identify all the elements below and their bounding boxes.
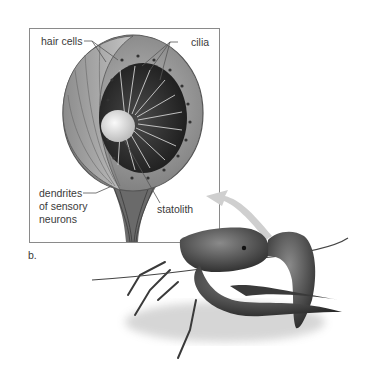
- figure: hair cells cilia dendrites of sensory ne…: [0, 0, 372, 389]
- label-dendrites-3: neurons: [39, 213, 77, 225]
- panel-label: b.: [28, 249, 37, 261]
- label-hair-cells: hair cells: [41, 35, 82, 47]
- label-cilia: cilia: [191, 36, 209, 48]
- label-dendrites-1: dendrites: [39, 187, 82, 199]
- label-dendrites-2: of sensory: [39, 200, 87, 212]
- label-statolith: statolith: [157, 203, 193, 215]
- statolith-shape: [101, 110, 135, 142]
